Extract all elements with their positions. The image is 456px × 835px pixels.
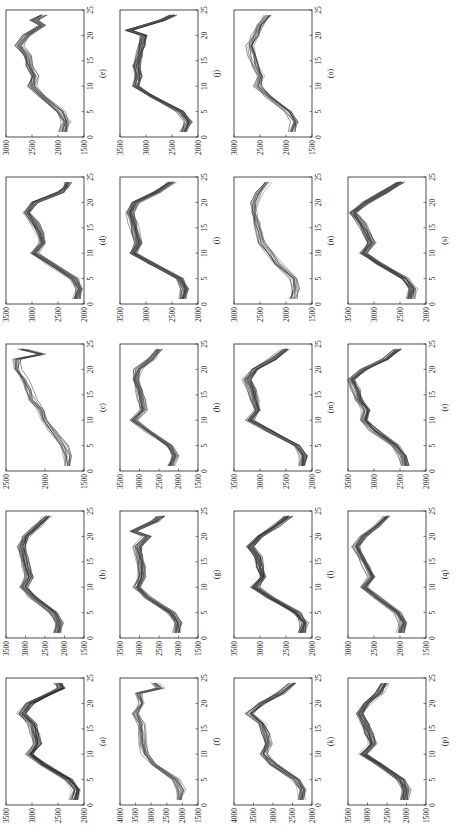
y-tick-label: 2500 — [383, 808, 392, 823]
x-tick-label: 20 — [200, 532, 209, 540]
y-tick-label: 3500 — [230, 474, 239, 489]
x-tick-label: 20 — [314, 532, 323, 540]
y-tick-label: 3000 — [370, 474, 379, 489]
y-tick-label: 2000 — [422, 307, 431, 322]
x-tick-label: 5 — [86, 610, 95, 614]
x-tick-label: 5 — [314, 276, 323, 280]
x-tick-label: 20 — [200, 198, 209, 206]
x-tick-label: 25 — [314, 6, 323, 14]
axes-frame — [348, 678, 426, 805]
subplot-label: (n) — [326, 236, 335, 246]
x-tick-label: 5 — [86, 777, 95, 781]
x-tick-label: 0 — [200, 135, 209, 139]
y-tick-label: 2500 — [54, 808, 63, 823]
y-tick-label: 2500 — [288, 808, 297, 823]
subplot-h: 051015202515002000250030003500(h) — [114, 334, 228, 501]
y-tick-label: 2000 — [178, 808, 187, 823]
x-tick-label: 0 — [428, 302, 437, 306]
y-tick-label: 3500 — [249, 808, 258, 823]
x-tick-label: 15 — [428, 725, 437, 733]
axes-frame — [234, 10, 312, 137]
y-tick-label: 4000 — [230, 808, 239, 823]
x-tick-label: 5 — [428, 777, 437, 781]
x-tick-label: 20 — [200, 699, 209, 707]
y-tick-label: 2500 — [54, 307, 63, 322]
subplot-l: 05101520252000250030003500(l) — [228, 501, 342, 668]
x-tick-label: 10 — [86, 249, 95, 257]
x-tick-label: 10 — [428, 416, 437, 424]
x-tick-label: 10 — [314, 82, 323, 90]
subplot-label: (l) — [326, 570, 335, 578]
subplot-label: (a) — [98, 737, 107, 746]
subplot-n: 05101520251500200025003000(n) — [228, 167, 342, 334]
y-tick-label: 1500 — [308, 140, 317, 155]
y-tick-label: 3500 — [2, 808, 11, 823]
y-tick-label: 2000 — [282, 307, 291, 322]
x-tick-label: 5 — [86, 443, 95, 447]
y-tick-label: 1500 — [80, 641, 89, 656]
x-tick-label: 0 — [86, 803, 95, 807]
x-tick-label: 25 — [314, 507, 323, 515]
x-tick-label: 0 — [86, 636, 95, 640]
y-tick-label: 3000 — [363, 808, 372, 823]
subplot-label: (c) — [98, 403, 107, 412]
x-tick-label: 0 — [428, 469, 437, 473]
subplot-label: (d) — [98, 236, 107, 246]
y-tick-label: 3000 — [230, 307, 239, 322]
x-tick-label: 25 — [428, 340, 437, 348]
x-tick-label: 10 — [200, 583, 209, 591]
x-tick-label: 0 — [428, 636, 437, 640]
x-tick-label: 10 — [314, 750, 323, 758]
y-tick-label: 1500 — [194, 641, 203, 656]
x-tick-label: 5 — [314, 109, 323, 113]
x-tick-label: 25 — [200, 674, 209, 682]
y-tick-label: 2000 — [402, 808, 411, 823]
y-tick-label: 1500 — [422, 808, 431, 823]
y-tick-label: 2000 — [396, 641, 405, 656]
axes-frame — [120, 344, 198, 471]
x-tick-label: 25 — [86, 507, 95, 515]
x-tick-label: 5 — [428, 610, 437, 614]
y-tick-label: 3000 — [269, 808, 278, 823]
y-tick-label: 2000 — [308, 641, 317, 656]
x-tick-label: 20 — [314, 198, 323, 206]
x-tick-label: 15 — [86, 558, 95, 566]
y-tick-label: 2500 — [155, 474, 164, 489]
y-tick-label: 2500 — [256, 140, 265, 155]
y-tick-label: 1500 — [194, 808, 203, 823]
subplot-label: (s) — [440, 236, 449, 245]
y-tick-label: 3500 — [344, 307, 353, 322]
y-tick-label: 3500 — [116, 641, 125, 656]
axes-frame — [6, 511, 84, 638]
y-tick-label: 3500 — [230, 641, 239, 656]
y-tick-label: 2000 — [422, 474, 431, 489]
x-tick-label: 25 — [314, 674, 323, 682]
y-tick-label: 2000 — [174, 641, 183, 656]
y-tick-label: 3500 — [2, 641, 11, 656]
y-tick-label: 3000 — [370, 307, 379, 322]
x-tick-label: 20 — [200, 365, 209, 373]
y-tick-label: 2000 — [174, 474, 183, 489]
x-tick-label: 20 — [428, 532, 437, 540]
x-tick-label: 5 — [200, 109, 209, 113]
y-tick-label: 2500 — [370, 641, 379, 656]
y-tick-label: 3000 — [230, 140, 239, 155]
y-tick-label: 1500 — [80, 140, 89, 155]
x-tick-label: 15 — [200, 224, 209, 232]
y-tick-label: 3000 — [344, 641, 353, 656]
y-tick-label: 2500 — [396, 474, 405, 489]
subplot-i: 05101520252000250030003500(i) — [114, 167, 228, 334]
subplot-q: 05101520251500200025003000(q) — [342, 501, 456, 668]
y-tick-label: 1500 — [80, 474, 89, 489]
subplot-label: (h) — [212, 403, 221, 413]
x-tick-label: 0 — [314, 135, 323, 139]
y-tick-label: 2000 — [308, 808, 317, 823]
x-tick-label: 15 — [86, 725, 95, 733]
x-tick-label: 10 — [86, 750, 95, 758]
x-tick-label: 20 — [86, 31, 95, 39]
x-tick-label: 25 — [86, 340, 95, 348]
y-tick-label: 2000 — [54, 140, 63, 155]
axes-frame — [348, 177, 426, 304]
y-tick-label: 2000 — [80, 808, 89, 823]
y-tick-label: 3000 — [256, 641, 265, 656]
